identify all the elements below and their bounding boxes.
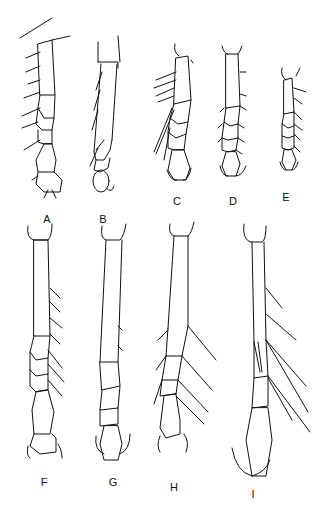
panel-label-i: I — [251, 488, 254, 500]
panel-label-a: A — [43, 213, 50, 225]
leg-f-drawing — [27, 224, 64, 458]
leg-i-drawing — [232, 224, 310, 476]
panel-label-g: G — [109, 476, 118, 488]
panel-label-b: B — [99, 213, 106, 225]
leg-a-drawing — [20, 18, 70, 198]
leg-g-drawing — [96, 224, 130, 460]
panel-label-e: E — [282, 191, 289, 203]
leg-d-drawing — [218, 46, 246, 176]
panel-label-c: C — [173, 195, 181, 207]
panel-label-h: H — [170, 481, 178, 493]
leg-drawings — [0, 0, 326, 519]
panel-label-f: F — [41, 476, 48, 488]
panel-label-d: D — [229, 195, 237, 207]
leg-b-drawing — [90, 36, 120, 192]
leg-c-drawing — [154, 44, 193, 180]
leg-h-drawing — [154, 222, 216, 452]
leg-e-drawing — [280, 68, 306, 170]
